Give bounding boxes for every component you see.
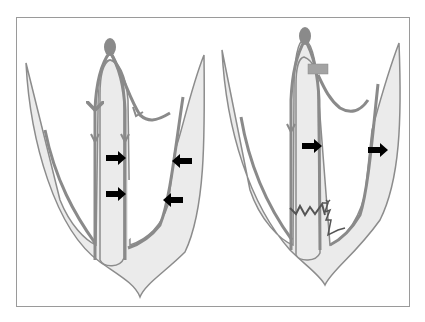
conduction-block-bar bbox=[308, 64, 328, 74]
left-sa-node bbox=[104, 38, 116, 56]
right-septum bbox=[296, 57, 320, 260]
heart-conduction-diagram bbox=[0, 0, 425, 322]
right-heart-panel bbox=[222, 27, 400, 285]
diagram-stage bbox=[0, 0, 425, 322]
right-conduction-branch bbox=[318, 75, 368, 111]
left-heart-panel bbox=[26, 38, 204, 297]
right-sa-node bbox=[299, 27, 311, 45]
